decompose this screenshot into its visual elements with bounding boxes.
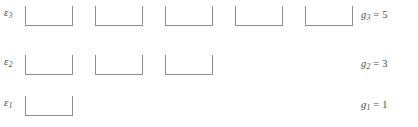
energy-symbol: ε [4, 6, 8, 18]
state-box [235, 6, 283, 26]
energy-level-label: ε2 [4, 56, 12, 69]
equals-sign: = [373, 99, 379, 110]
equals-sign: = [373, 58, 379, 69]
degeneracy-label: g1=1 [361, 100, 387, 112]
degeneracy-value: 3 [382, 58, 387, 69]
degeneracy-symbol: g [361, 99, 366, 110]
energy-subscript: 2 [9, 60, 13, 69]
degeneracy-subscript: 2 [367, 62, 371, 71]
degeneracy-label: g3=5 [361, 10, 387, 22]
state-box [165, 6, 213, 26]
degeneracy-symbol: g [361, 9, 366, 20]
degeneracy-value: 1 [382, 99, 387, 110]
degeneracy-symbol: g [361, 58, 366, 69]
state-box [25, 96, 73, 116]
energy-level-row: ε3g3=5 [0, 4, 418, 34]
energy-level-diagram: ε3g3=5ε2g2=3ε1g1=1 [0, 0, 418, 127]
energy-subscript: 1 [9, 101, 13, 110]
energy-level-label: ε1 [4, 97, 12, 110]
energy-level-row: ε1g1=1 [0, 94, 418, 124]
state-box [95, 6, 143, 26]
state-box [95, 55, 143, 75]
degeneracy-subscript: 3 [367, 13, 371, 22]
degeneracy-value: 5 [382, 9, 387, 20]
energy-level-row: ε2g2=3 [0, 53, 418, 83]
energy-subscript: 3 [9, 11, 13, 20]
degeneracy-label: g2=3 [361, 59, 387, 71]
state-box [25, 6, 73, 26]
energy-level-label: ε3 [4, 7, 12, 20]
energy-symbol: ε [4, 55, 8, 67]
energy-symbol: ε [4, 96, 8, 108]
equals-sign: = [373, 9, 379, 20]
state-box [305, 6, 353, 26]
state-box [165, 55, 213, 75]
state-box [25, 55, 73, 75]
degeneracy-subscript: 1 [367, 103, 371, 112]
